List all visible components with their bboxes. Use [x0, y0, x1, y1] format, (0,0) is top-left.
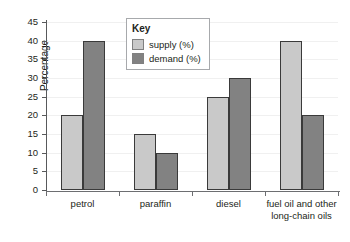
x-axis-tick-label: petrol: [46, 198, 119, 210]
legend-label-demand: demand (%): [149, 53, 201, 64]
x-axis-tick: [46, 191, 47, 196]
y-axis-tick-label: 30: [12, 73, 38, 83]
legend-label-supply: supply (%): [149, 39, 194, 50]
bar-supply: [207, 97, 229, 190]
legend: Key supply (%) demand (%): [126, 18, 210, 70]
y-axis-tick-label: 15: [12, 129, 38, 139]
y-axis-tick-label: 35: [12, 54, 38, 64]
x-axis-tick: [192, 191, 193, 196]
y-axis-line: [46, 20, 47, 192]
legend-swatch-demand-icon: [132, 53, 144, 64]
x-axis-line: [46, 191, 340, 192]
y-axis-tick-label: 5: [12, 166, 38, 176]
y-axis-tick-label: 25: [12, 92, 38, 102]
legend-item-demand: demand (%): [132, 51, 204, 65]
x-axis-tick: [119, 191, 120, 196]
x-axis-tick-label: paraffin: [119, 198, 192, 210]
bar-supply: [280, 41, 302, 190]
x-axis-tick: [265, 191, 266, 196]
legend-item-supply: supply (%): [132, 37, 204, 51]
x-axis-tick: [338, 191, 339, 196]
x-axis-tick-label: fuel oil and other long-chain oils: [265, 198, 338, 221]
y-axis-tick-label: 45: [12, 17, 38, 27]
bar-supply: [61, 115, 83, 190]
bar-supply: [134, 134, 156, 190]
y-axis-tick-label: 20: [12, 110, 38, 120]
y-axis-tick-label: 0: [12, 185, 38, 195]
y-axis-tick-label: 40: [12, 36, 38, 46]
y-axis-tick-label: 10: [12, 148, 38, 158]
bar-demand: [229, 78, 251, 190]
legend-title: Key: [132, 23, 204, 35]
bar-demand: [156, 153, 178, 190]
bar-chart: Percentage 051015202530354045 petrolpara…: [0, 0, 350, 242]
legend-swatch-supply-icon: [132, 39, 144, 50]
bar-demand: [83, 41, 105, 190]
bar-demand: [302, 115, 324, 190]
x-axis-tick-label: diesel: [192, 198, 265, 210]
